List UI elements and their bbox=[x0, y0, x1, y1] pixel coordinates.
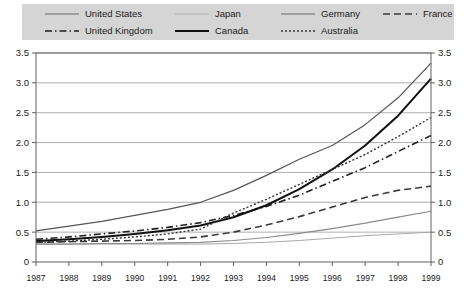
legend-row-1: United StatesJapanGermanyFrance bbox=[22, 5, 454, 23]
legend-item-australia[interactable]: Australia bbox=[280, 22, 358, 40]
x-axis-tick-label: 1992 bbox=[191, 273, 210, 283]
x-axis-tick-label: 1997 bbox=[356, 273, 375, 283]
plot-area: 00.51.01.52.02.53.03.5 00.51.01.52.02.53… bbox=[0, 42, 473, 295]
y-axis-left-tick-label: 0.5 bbox=[16, 227, 29, 238]
legend-line-swatch-icon bbox=[280, 25, 316, 37]
x-axis-ticks: 1987198819891990199119921993199419951996… bbox=[27, 262, 441, 283]
x-axis-tick-label: 1993 bbox=[224, 273, 243, 283]
legend-line-swatch-icon bbox=[382, 8, 418, 20]
x-axis-tick-label: 1996 bbox=[323, 273, 342, 283]
x-axis-tick-label: 1998 bbox=[389, 273, 408, 283]
legend-item-label: Canada bbox=[215, 25, 248, 37]
y-axis-right-tick-label: 1.5 bbox=[438, 167, 451, 178]
legend-item-label: United Kingdom bbox=[85, 25, 153, 37]
y-axis-right-tick-label: 0.5 bbox=[438, 227, 451, 238]
legend-item-japan[interactable]: Japan bbox=[174, 5, 241, 23]
y-axis-right-tick-label: 0 bbox=[438, 256, 443, 267]
x-axis-tick-label: 1994 bbox=[257, 273, 276, 283]
legend-line-swatch-icon bbox=[44, 25, 80, 37]
plot-border bbox=[36, 53, 431, 262]
legend-line-swatch-icon bbox=[280, 8, 316, 20]
legend-line-swatch-icon bbox=[174, 8, 210, 20]
y-axis-right-tick-label: 2.5 bbox=[438, 107, 451, 118]
legend-item-label: Japan bbox=[215, 8, 241, 20]
chart-canvas: 00.51.01.52.02.53.03.5 00.51.01.52.02.53… bbox=[0, 42, 473, 295]
y-axis-left-tick-label: 1.5 bbox=[16, 167, 29, 178]
series-line-australia bbox=[36, 117, 431, 242]
legend-row-2: United KingdomCanadaAustralia bbox=[22, 22, 454, 40]
y-axis-left-tick-label: 2.0 bbox=[16, 137, 29, 148]
y-axis-right-tick-label: 2.0 bbox=[438, 137, 451, 148]
y-axis-left-tick-label: 0 bbox=[24, 256, 29, 267]
y-axis-left-tick-label: 3.0 bbox=[16, 77, 29, 88]
y-axis-left-tick-label: 3.5 bbox=[16, 47, 29, 58]
x-axis-tick-label: 1999 bbox=[422, 273, 441, 283]
legend-item-united-kingdom[interactable]: United Kingdom bbox=[44, 22, 153, 40]
legend-item-france[interactable]: France bbox=[382, 5, 453, 23]
data-series-group bbox=[36, 63, 431, 244]
legend-line-swatch-icon bbox=[174, 25, 210, 37]
x-axis-tick-label: 1991 bbox=[158, 273, 177, 283]
legend-item-canada[interactable]: Canada bbox=[174, 22, 248, 40]
x-axis-tick-label: 1995 bbox=[290, 273, 309, 283]
series-line-united-states bbox=[36, 63, 431, 231]
y-axis-right-tick-label: 3.5 bbox=[438, 47, 451, 58]
legend-item-label: United States bbox=[85, 8, 142, 20]
x-axis-tick-label: 1990 bbox=[125, 273, 144, 283]
x-axis-tick-label: 1987 bbox=[27, 273, 46, 283]
y-axis-left-tick-label: 1.0 bbox=[16, 197, 29, 208]
y-axis-right-tick-label: 3.0 bbox=[438, 77, 451, 88]
legend-item-label: Australia bbox=[321, 25, 358, 37]
y-axis-left-ticks: 00.51.01.52.02.53.03.5 bbox=[16, 47, 36, 267]
line-chart-figure: United StatesJapanGermanyFrance United K… bbox=[0, 0, 473, 295]
x-axis-tick-label: 1988 bbox=[59, 273, 78, 283]
y-axis-right-ticks: 00.51.01.52.02.53.03.5 bbox=[431, 47, 451, 267]
chart-legend: United StatesJapanGermanyFrance United K… bbox=[22, 4, 454, 40]
legend-item-label: Germany bbox=[321, 8, 360, 20]
legend-line-swatch-icon bbox=[44, 8, 80, 20]
legend-item-germany[interactable]: Germany bbox=[280, 5, 360, 23]
x-axis-tick-label: 1989 bbox=[92, 273, 111, 283]
gridlines bbox=[36, 53, 431, 232]
legend-item-label: France bbox=[423, 8, 453, 20]
y-axis-left-tick-label: 2.5 bbox=[16, 107, 29, 118]
y-axis-right-tick-label: 1.0 bbox=[438, 197, 451, 208]
legend-item-united-states[interactable]: United States bbox=[44, 5, 142, 23]
series-line-canada bbox=[36, 79, 431, 241]
